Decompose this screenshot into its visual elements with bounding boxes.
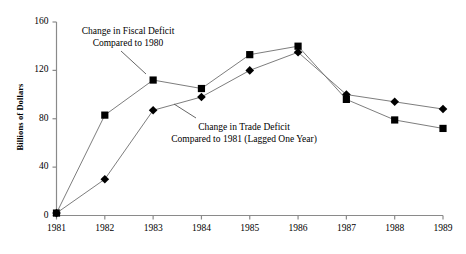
annotation-trade-line2: Compared to 1981 (Lagged One Year)	[170, 134, 318, 146]
data-point-diamond	[197, 93, 206, 102]
data-point-diamond	[101, 175, 110, 184]
chart-container: Billions of Dollars 04080120160 19811982…	[0, 0, 466, 254]
y-axis-tick-label: 40	[23, 161, 49, 171]
x-axis-tick-label: 1982	[85, 223, 125, 233]
annotation-trade-line1: Change in Trade Deficit	[170, 122, 318, 134]
leader-line-trade	[174, 104, 196, 118]
x-axis-tick-label: 1988	[375, 223, 415, 233]
annotation-leader-lines	[121, 51, 196, 118]
data-point-diamond	[439, 105, 448, 114]
data-point-square	[246, 51, 253, 58]
x-axis-tick-label: 1983	[133, 223, 173, 233]
y-axis-tick-label: 120	[23, 64, 49, 74]
data-point-square	[391, 116, 398, 123]
data-point-square	[150, 76, 157, 83]
data-point-square	[198, 85, 205, 92]
x-axis-tick-label: 1981	[37, 223, 77, 233]
leader-line-fiscal	[121, 51, 146, 74]
y-axis-tick-label: 80	[23, 113, 49, 123]
x-axis-tick-label: 1985	[230, 223, 270, 233]
x-axis-ticks	[57, 216, 444, 220]
data-point-diamond	[390, 98, 399, 107]
y-axis-tick-label: 0	[23, 210, 49, 220]
data-point-diamond	[149, 106, 158, 115]
annotation-fiscal-line2: Compared to 1980	[62, 38, 194, 50]
annotation-fiscal-deficit: Change in Fiscal Deficit Compared to 198…	[62, 26, 194, 49]
annotation-trade-deficit: Change in Trade Deficit Compared to 1981…	[170, 122, 318, 145]
y-axis-tick-label: 160	[23, 16, 49, 26]
x-axis-tick-label: 1984	[181, 223, 221, 233]
x-axis-tick-label: 1986	[278, 223, 318, 233]
data-point-diamond	[245, 66, 254, 75]
data-point-square	[439, 125, 446, 132]
x-axis-tick-label: 1987	[326, 223, 366, 233]
annotation-fiscal-line1: Change in Fiscal Deficit	[62, 26, 194, 38]
data-point-square	[101, 112, 108, 119]
x-axis-tick-label: 1989	[423, 223, 463, 233]
axis-lines	[57, 22, 444, 216]
